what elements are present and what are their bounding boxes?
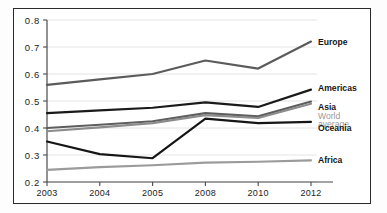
chart-figure: 0.8 0.7 0.6 0.5 0.4 0.3 0.2 2003 2004 20…: [0, 0, 387, 213]
series-label-asia: Asia: [318, 103, 336, 112]
x-tick-marks: [47, 182, 311, 186]
y-tick-label-6: 0.2: [14, 177, 40, 188]
series-line-africa: [47, 160, 311, 169]
x-tick-label-4: 2010: [241, 188, 275, 198]
x-tick-label-1: 2004: [83, 188, 117, 198]
y-tick-label-0: 0.8: [14, 15, 40, 26]
y-tick-label-2: 0.6: [14, 69, 40, 80]
series-label-africa: Africa: [318, 156, 342, 165]
series-label-oceania: Oceania: [318, 124, 351, 133]
series-label-americas: Americas: [318, 84, 357, 93]
series-label-europe: Europe: [318, 38, 348, 47]
x-tick-label-3: 2008: [188, 188, 222, 198]
series-lines: [47, 42, 311, 170]
y-tick-label-3: 0.5: [14, 96, 40, 107]
y-tick-label-4: 0.4: [14, 123, 40, 134]
series-line-europe: [47, 42, 311, 85]
x-tick-label-5: 2012: [294, 188, 328, 198]
x-tick-label-2: 2005: [136, 188, 170, 198]
x-tick-label-0: 2003: [30, 188, 64, 198]
y-tick-label-1: 0.7: [14, 42, 40, 53]
y-tick-label-5: 0.3: [14, 150, 40, 161]
